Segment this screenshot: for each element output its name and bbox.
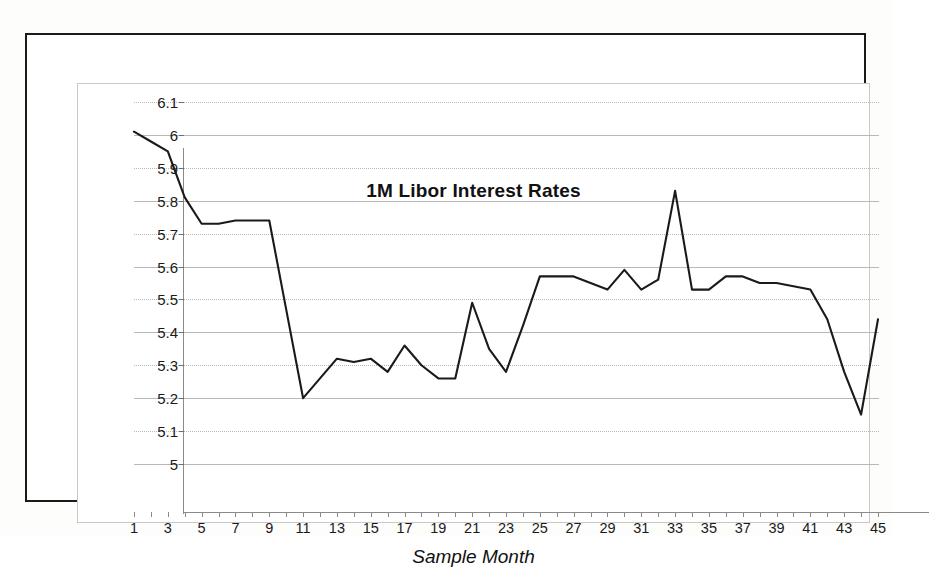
x-tick-mark — [591, 512, 592, 517]
y-axis-line — [183, 148, 184, 514]
x-tick-mark — [692, 512, 693, 517]
x-tick-mark — [506, 512, 507, 517]
chart-title: 1M Libor Interest Rates — [78, 180, 869, 202]
x-tick-mark — [269, 512, 270, 517]
x-tick-mark — [421, 512, 422, 517]
y-tick-mark — [179, 464, 184, 465]
gridline — [134, 234, 879, 235]
x-tick-mark — [405, 512, 406, 517]
y-tick-label: 5.7 — [157, 227, 178, 242]
x-tick-label: 31 — [633, 521, 649, 536]
x-tick-mark — [607, 512, 608, 517]
x-tick-label: 25 — [532, 521, 548, 536]
x-tick-label: 15 — [363, 521, 379, 536]
x-axis-title: Sample Month — [78, 546, 869, 568]
x-tick-label: 33 — [667, 521, 683, 536]
x-tick-mark — [540, 512, 541, 517]
x-tick-label: 3 — [164, 521, 172, 536]
x-tick-mark — [134, 512, 135, 517]
x-tick-label: 23 — [498, 521, 514, 536]
x-tick-mark — [624, 512, 625, 517]
x-tick-mark — [219, 512, 220, 517]
x-tick-label: 45 — [870, 521, 886, 536]
x-tick-label: 39 — [768, 521, 784, 536]
x-tick-label: 17 — [396, 521, 412, 536]
x-tick-mark — [168, 512, 169, 517]
y-axis-tick-labels: 6.165.95.85.75.65.55.45.35.25.15 — [122, 84, 178, 522]
x-tick-label: 5 — [198, 521, 206, 536]
x-tick-mark — [523, 512, 524, 517]
x-tick-mark — [252, 512, 253, 517]
y-tick-label: 6.1 — [157, 95, 178, 110]
y-tick-label: 5 — [170, 457, 178, 472]
gridline — [134, 135, 879, 136]
y-tick-label: 5.9 — [157, 161, 178, 176]
gridline — [134, 102, 879, 103]
x-tick-mark — [878, 512, 879, 517]
x-tick-label: 29 — [599, 521, 615, 536]
x-tick-mark — [438, 512, 439, 517]
gridline — [134, 299, 879, 300]
gridline — [134, 464, 879, 465]
x-tick-mark — [557, 512, 558, 517]
y-tick-label: 5.4 — [157, 325, 178, 340]
x-tick-mark — [354, 512, 355, 517]
x-tick-label: 9 — [265, 521, 273, 536]
x-tick-mark — [455, 512, 456, 517]
x-tick-mark — [793, 512, 794, 517]
gridline — [134, 365, 879, 366]
x-tick-mark — [777, 512, 778, 517]
x-tick-label: 41 — [802, 521, 818, 536]
x-tick-mark — [844, 512, 845, 517]
y-tick-label: 5.5 — [157, 292, 178, 307]
x-tick-mark — [726, 512, 727, 517]
x-tick-mark — [371, 512, 372, 517]
y-tick-label: 6 — [170, 128, 178, 143]
x-tick-label: 21 — [464, 521, 480, 536]
gridline — [134, 168, 879, 169]
x-tick-mark — [641, 512, 642, 517]
x-tick-mark — [709, 512, 710, 517]
y-tick-mark — [179, 431, 184, 432]
x-tick-label: 7 — [231, 521, 239, 536]
x-tick-mark — [574, 512, 575, 517]
x-tick-mark — [388, 512, 389, 517]
y-tick-label: 5.2 — [157, 391, 178, 406]
x-tick-mark — [286, 512, 287, 517]
gridline — [134, 332, 879, 333]
y-tick-mark — [179, 365, 184, 366]
x-tick-label: 11 — [296, 521, 311, 536]
y-tick-label: 5.1 — [157, 424, 178, 439]
x-tick-label: 37 — [735, 521, 751, 536]
x-tick-mark — [303, 512, 304, 517]
x-tick-label: 13 — [329, 521, 345, 536]
x-tick-mark — [861, 512, 862, 517]
y-tick-mark — [179, 135, 184, 136]
x-tick-mark — [472, 512, 473, 517]
y-tick-mark — [179, 267, 184, 268]
y-tick-mark — [179, 332, 184, 333]
x-tick-mark — [235, 512, 236, 517]
gridline — [134, 431, 879, 432]
x-tick-label: 35 — [701, 521, 717, 536]
x-tick-mark — [675, 512, 676, 517]
x-tick-mark — [320, 512, 321, 517]
x-tick-mark — [185, 512, 186, 517]
x-tick-mark — [658, 512, 659, 517]
x-tick-label: 19 — [430, 521, 446, 536]
y-tick-mark — [179, 168, 184, 169]
figure-outer-border: 6.165.95.85.75.65.55.45.35.25.15 1357911… — [25, 33, 866, 502]
y-tick-mark — [179, 234, 184, 235]
y-tick-label: 5.3 — [157, 358, 178, 373]
x-tick-mark — [337, 512, 338, 517]
y-tick-mark — [179, 398, 184, 399]
x-tick-mark — [743, 512, 744, 517]
y-tick-mark — [179, 299, 184, 300]
x-tick-mark — [760, 512, 761, 517]
gridline — [134, 398, 879, 399]
chart-plot-frame: 6.165.95.85.75.65.55.45.35.25.15 1357911… — [77, 83, 870, 523]
y-tick-label: 5.6 — [157, 260, 178, 275]
x-tick-label: 1 — [130, 521, 138, 536]
y-tick-mark — [179, 102, 184, 103]
